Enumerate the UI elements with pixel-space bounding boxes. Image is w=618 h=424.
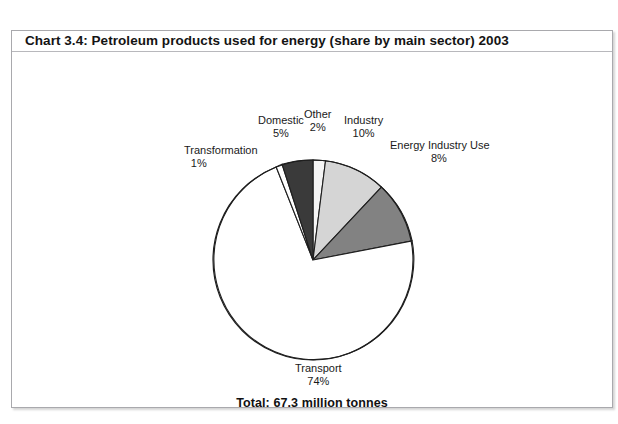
- pie-label-energy-industry-use: Energy Industry Use 8%: [390, 139, 490, 165]
- pie-chart: [12, 52, 614, 408]
- pie-plot-area: Transformation 1% Domestic 5% Other 2% I…: [12, 52, 612, 407]
- page-title: Chart 3.4: Petroleum products used for e…: [25, 33, 509, 48]
- pie-label-other-name: Other: [304, 108, 332, 121]
- pie-label-other: Other 2%: [304, 108, 332, 134]
- pie-label-transformation-pct: 1%: [184, 157, 258, 170]
- chart-frame: Chart 3.4: Petroleum products used for e…: [11, 30, 613, 408]
- pie-label-transformation-name: Transformation: [184, 144, 258, 157]
- pie-label-industry: Industry 10%: [344, 114, 383, 140]
- pie-label-energy-industry-use-pct: 8%: [390, 152, 490, 165]
- pie-label-transport-name: Transport: [295, 362, 342, 375]
- pie-label-energy-industry-use-name: Energy Industry Use: [390, 139, 490, 152]
- chart-total-caption: Total: 67.3 million tonnes: [12, 396, 612, 410]
- pie-label-transformation: Transformation 1%: [184, 144, 258, 170]
- pie-label-domestic-pct: 5%: [258, 127, 304, 140]
- pie-label-industry-pct: 10%: [344, 127, 383, 140]
- chart-title-bar: Chart 3.4: Petroleum products used for e…: [12, 31, 612, 52]
- pie-label-industry-name: Industry: [344, 114, 383, 127]
- pie-label-domestic: Domestic 5%: [258, 114, 304, 140]
- scan-artifact-header: [0, 0, 618, 22]
- pie-label-domestic-name: Domestic: [258, 114, 304, 127]
- pie-label-transport: Transport 74%: [295, 362, 342, 388]
- pie-label-other-pct: 2%: [304, 121, 332, 134]
- pie-label-transport-pct: 74%: [295, 375, 342, 388]
